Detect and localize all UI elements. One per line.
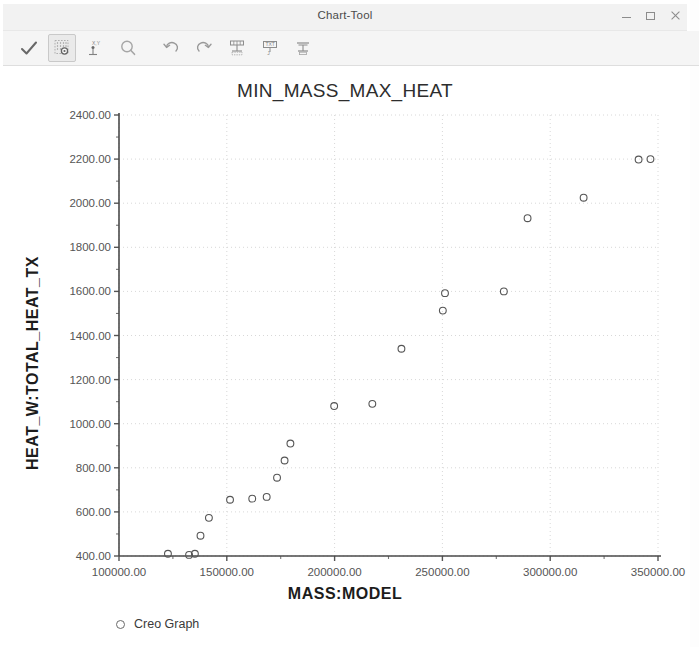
svg-text:1800.00: 1800.00 [69, 241, 111, 253]
svg-text:X,Y: X,Y [92, 40, 101, 46]
maximize-button[interactable] [645, 10, 657, 22]
toolbar: X,Y [3, 31, 699, 66]
table-icon[interactable] [223, 34, 251, 62]
svg-text:600.00: 600.00 [76, 506, 111, 518]
svg-text:400.00: 400.00 [76, 550, 111, 562]
minimize-button[interactable] [621, 10, 633, 22]
svg-text:250000.00: 250000.00 [415, 566, 469, 578]
legend-label: Creo Graph [134, 617, 199, 631]
svg-text:350000.00: 350000.00 [631, 566, 685, 578]
svg-text:800.00: 800.00 [76, 462, 111, 474]
data-points[interactable] [165, 156, 654, 559]
svg-text:200000.00: 200000.00 [307, 566, 361, 578]
chart-legend: Creo Graph [116, 617, 199, 631]
chart-canvas[interactable]: MIN_MASS_MAX_HEAT HEAT_W:TOTAL_HEAT_TX M… [3, 66, 687, 644]
svg-text:300000.00: 300000.00 [523, 566, 577, 578]
axis-tick-labels: 400.00600.00800.001000.001200.001400.001… [69, 109, 685, 578]
window-controls [621, 10, 681, 22]
svg-text:1200.00: 1200.00 [69, 374, 111, 386]
redo-icon[interactable] [190, 34, 218, 62]
axis-ticks [114, 115, 658, 561]
svg-text:150000.00: 150000.00 [200, 566, 254, 578]
svg-text:100000.00: 100000.00 [92, 566, 146, 578]
export-icon[interactable] [289, 34, 317, 62]
svg-text:1600.00: 1600.00 [69, 285, 111, 297]
legend-marker-icon [116, 620, 125, 629]
scatter-plot: 400.00600.00800.001000.001200.001400.001… [3, 66, 687, 644]
gridlines [119, 115, 658, 556]
xy-axis-icon[interactable]: X,Y [81, 34, 109, 62]
zoom-icon[interactable] [114, 34, 142, 62]
title-bar: Chart-Tool [3, 4, 687, 31]
svg-text:2000.00: 2000.00 [69, 197, 111, 209]
svg-text:2400.00: 2400.00 [69, 109, 111, 121]
accept-check-icon[interactable] [15, 34, 43, 62]
close-button[interactable] [669, 10, 681, 22]
svg-text:1400.00: 1400.00 [69, 330, 111, 342]
svg-text:TXT: TXT [265, 41, 274, 47]
axis-lines [119, 113, 661, 556]
window-title: Chart-Tool [3, 9, 687, 21]
undo-icon[interactable] [157, 34, 185, 62]
svg-text:2200.00: 2200.00 [69, 153, 111, 165]
grid-points-icon[interactable] [48, 34, 76, 62]
svg-text:1000.00: 1000.00 [69, 418, 111, 430]
text-format-icon[interactable]: TXT J [256, 34, 284, 62]
